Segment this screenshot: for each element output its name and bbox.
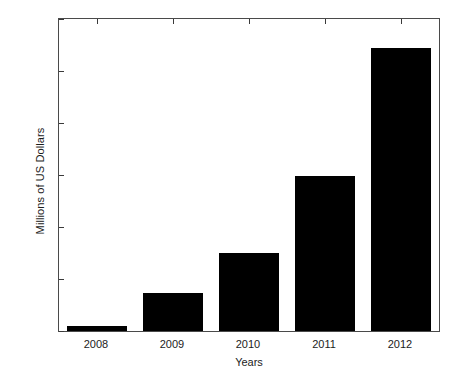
x-tick-mark (97, 19, 98, 24)
x-tick-mark (249, 19, 250, 24)
x-tick-label-2008: 2008 (61, 338, 131, 350)
y-tick-mark (59, 71, 64, 72)
bar-2010 (219, 253, 280, 331)
bar-2012 (371, 48, 432, 331)
bar-2008 (67, 326, 128, 331)
x-axis-title: Years (58, 356, 440, 368)
x-tick-label-2011: 2011 (289, 338, 359, 350)
y-tick-mark (59, 123, 64, 124)
plot-area (58, 18, 440, 332)
x-tick-label-2010: 2010 (213, 338, 283, 350)
bar-chart-figure: Millions of US Dollars Years 02004006008… (0, 0, 461, 390)
x-tick-mark (325, 19, 326, 24)
y-tick-mark (59, 19, 64, 20)
y-axis-title: Millions of US Dollars (34, 61, 46, 301)
bar-2009 (143, 293, 204, 331)
y-tick-mark (59, 227, 64, 228)
bar-2011 (295, 176, 356, 331)
bars-layer (59, 19, 439, 331)
x-tick-label-2012: 2012 (365, 338, 435, 350)
x-tick-label-2009: 2009 (137, 338, 207, 350)
y-tick-mark (59, 331, 64, 332)
y-tick-mark (59, 279, 64, 280)
x-tick-mark (173, 19, 174, 24)
y-tick-mark (59, 175, 64, 176)
x-tick-mark (401, 19, 402, 24)
